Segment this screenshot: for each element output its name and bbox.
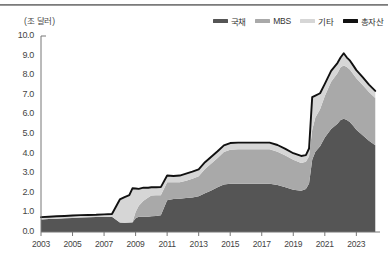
x-tick-label-2015: 2015 <box>213 239 247 249</box>
x-tick-label-2021: 2021 <box>308 239 342 249</box>
x-tick-label-2009: 2009 <box>119 239 153 249</box>
x-tick-label-2005: 2005 <box>56 239 90 249</box>
x-tick-label-2019: 2019 <box>276 239 310 249</box>
chart-plot-area: 10.09.08.07.06.05.04.03.02.01.00.0 20032… <box>0 0 388 265</box>
y-tick-label-5.0: 5.0 <box>4 128 34 138</box>
area-chart-svg <box>0 0 388 265</box>
x-tick-label-2003: 2003 <box>24 239 58 249</box>
x-tick-label-2011: 2011 <box>150 239 184 249</box>
y-tick-label-8.0: 8.0 <box>4 69 34 79</box>
y-tick-label-2.0: 2.0 <box>4 187 34 197</box>
x-tick-label-2007: 2007 <box>87 239 121 249</box>
x-tick-label-2017: 2017 <box>245 239 279 249</box>
y-tick-label-6.0: 6.0 <box>4 108 34 118</box>
y-tick-label-0.0: 0.0 <box>4 226 34 236</box>
y-tick-label-4.0: 4.0 <box>4 148 34 158</box>
y-tick-label-1.0: 1.0 <box>4 206 34 216</box>
x-tick-label-2023: 2023 <box>339 239 373 249</box>
y-tick-label-3.0: 3.0 <box>4 167 34 177</box>
y-tick-label-9.0: 9.0 <box>4 50 34 60</box>
y-tick-label-7.0: 7.0 <box>4 89 34 99</box>
x-tick-label-2013: 2013 <box>182 239 216 249</box>
y-tick-label-10.0: 10.0 <box>4 30 34 40</box>
